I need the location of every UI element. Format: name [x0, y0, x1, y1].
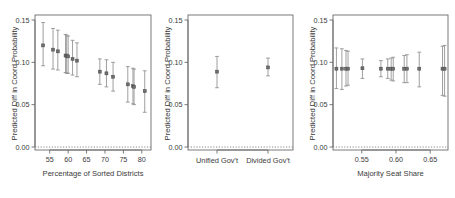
- figure-panel-group: 0.000.050.100.15Predicted Diff in Coord …: [0, 0, 455, 198]
- x-tick-label: 55: [46, 155, 54, 164]
- data-point-marker: [56, 50, 59, 53]
- data-point-group: [75, 43, 79, 77]
- data-point-group: [386, 59, 390, 78]
- data-point-group: [143, 71, 147, 112]
- y-tick-label: 0.15: [314, 16, 328, 25]
- data-point-marker: [347, 67, 350, 70]
- y-tick-label: 0.15: [16, 16, 30, 25]
- data-point-marker: [267, 66, 270, 69]
- x-category-label: Unified Gov't: [196, 156, 238, 165]
- data-point-marker: [386, 67, 389, 70]
- data-point-marker: [361, 67, 364, 70]
- data-point-group: [441, 46, 445, 95]
- x-tick-label: 60: [64, 155, 72, 164]
- data-point-group: [417, 52, 421, 87]
- data-point-group: [335, 48, 339, 89]
- x-axis-title: Percentage of Sorted Districts: [43, 169, 144, 178]
- data-point-marker: [98, 70, 101, 73]
- x-tick-label: 70: [101, 155, 109, 164]
- panel-canvas: 0.000.050.100.15Predicted Diff in Coord …: [298, 0, 455, 198]
- x-tick-label: 0.65: [423, 155, 437, 164]
- data-point-group: [51, 28, 55, 69]
- y-tick-label: 0.00: [16, 143, 30, 152]
- y-tick-label: 0.00: [169, 143, 183, 152]
- data-point-marker: [379, 67, 382, 70]
- x-category-label: Divided Gov't: [246, 156, 290, 165]
- data-point-group: [361, 59, 365, 78]
- data-point-marker: [443, 67, 446, 70]
- data-point-marker: [392, 67, 395, 70]
- y-axis-title: Predicted Diff in Coord Probability: [10, 26, 19, 140]
- plot-frame: [188, 15, 293, 150]
- data-point-marker: [105, 72, 108, 75]
- data-point-marker: [112, 75, 115, 78]
- plot-frame: [333, 15, 448, 150]
- panel-canvas: 0.000.050.100.15Predicted Diff in Coord …: [0, 0, 160, 198]
- y-tick-label: 0.15: [169, 16, 183, 25]
- x-tick-label: 65: [83, 155, 91, 164]
- data-point-group: [56, 30, 60, 70]
- y-axis-title: Predicted Diff in Coord Probability: [163, 26, 172, 140]
- data-point-group: [41, 23, 45, 66]
- data-point-group: [443, 45, 447, 96]
- data-point-group: [111, 62, 115, 91]
- x-tick-label: 80: [138, 155, 146, 164]
- data-point-marker: [75, 59, 78, 62]
- x-axis-title: Majority Seat Share: [357, 169, 424, 178]
- data-point-marker: [71, 57, 74, 60]
- data-point-marker: [143, 90, 146, 93]
- data-point-group: [340, 49, 344, 90]
- data-point-group: [346, 51, 350, 85]
- data-point-group: [391, 57, 395, 81]
- data-point-group: [98, 59, 102, 84]
- data-point-marker: [405, 67, 408, 70]
- data-point-marker: [67, 55, 70, 58]
- data-point-group: [266, 58, 270, 76]
- data-point-marker: [335, 67, 338, 70]
- x-tick-label: 75: [119, 155, 127, 164]
- data-point-marker: [216, 70, 219, 73]
- plot-frame: [35, 15, 151, 150]
- data-point-marker: [133, 85, 136, 88]
- data-point-marker: [42, 44, 45, 47]
- panel-sorted-districts: 0.000.050.100.15Predicted Diff in Coord …: [0, 0, 160, 198]
- panel-canvas: 0.000.050.100.15Predicted Diff in Coord …: [155, 0, 300, 198]
- data-point-group: [379, 61, 383, 77]
- data-point-group: [126, 67, 130, 103]
- data-point-group: [71, 40, 75, 75]
- panel-government-type: 0.000.050.100.15Predicted Diff in Coord …: [155, 0, 300, 198]
- data-point-marker: [126, 83, 129, 86]
- data-point-group: [405, 55, 409, 83]
- x-tick-label: 0.60: [389, 155, 403, 164]
- data-point-marker: [340, 67, 343, 70]
- data-point-group: [215, 56, 219, 87]
- y-axis-title: Predicted Diff in Coord Probability: [308, 26, 317, 140]
- x-tick-label: 0.55: [355, 155, 369, 164]
- y-tick-label: 0.00: [314, 143, 328, 152]
- data-point-group: [105, 60, 109, 87]
- data-point-marker: [52, 48, 55, 51]
- panel-majority-seat-share: 0.000.050.100.15Predicted Diff in Coord …: [298, 0, 455, 198]
- data-point-marker: [418, 67, 421, 70]
